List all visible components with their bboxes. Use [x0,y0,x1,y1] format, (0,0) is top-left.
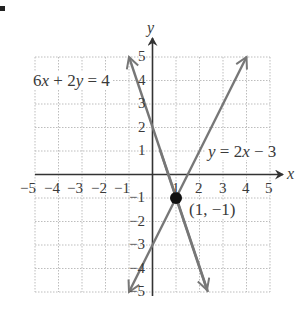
x-tick-label: 3 [219,181,227,196]
x-tick-label: −1 [114,181,130,196]
equation-label-line1: 6x + 2y = 4 [31,72,112,89]
x-tick-label: −3 [67,181,83,196]
x-tick-label: 2 [195,181,203,196]
x-tick-label: −5 [20,181,36,196]
y-tick-label: 2 [138,120,146,135]
y-tick-label: −2 [129,214,145,229]
x-tick-label: −4 [44,181,60,196]
x-tick-label: 4 [242,181,250,196]
x-tick-label: −2 [91,181,107,196]
y-tick-label: 3 [138,96,146,111]
x-axis-label: x [287,166,294,182]
y-tick-label: 1 [138,143,146,158]
equation-label-line2: y = 2x − 3 [206,143,278,160]
y-axis-label: y [147,20,154,36]
y-tick-label: 4 [138,73,146,88]
y-tick-label: −3 [129,237,145,252]
y-tick-label: 5 [138,49,146,64]
y-tick-label: −4 [129,261,145,276]
x-tick-label: 1 [172,181,180,196]
y-tick-label: −1 [129,190,145,205]
line-y-eq-2x-minus-3 [176,57,247,198]
intersection-label: (1, −1) [187,201,237,218]
y-tick-label: −5 [129,284,145,299]
graph-figure: y x −5 −4 −3 −2 −1 1 2 3 4 5 5 4 3 2 1 −… [0,0,307,317]
x-tick-label: 5 [265,181,273,196]
